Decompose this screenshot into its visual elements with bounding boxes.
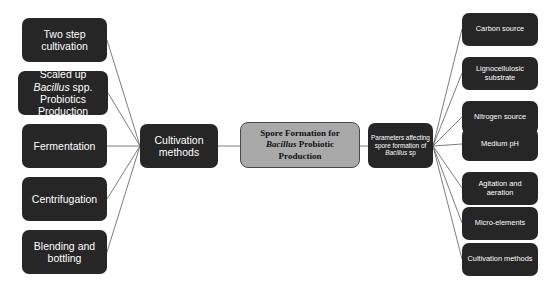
connector-right-6 bbox=[433, 146, 462, 223]
connector-right-7 bbox=[433, 146, 462, 259]
connector-right-1 bbox=[433, 29, 462, 146]
connector-left-4 bbox=[107, 146, 140, 199]
left-node-scaled-up-bacillus[interactable]: Scaled up Bacillus spp. Probiotics Produ… bbox=[18, 71, 108, 115]
right-node-medium-ph[interactable]: Medium pH bbox=[462, 128, 538, 161]
right-node-label: Carbon source bbox=[473, 25, 527, 34]
left-node-label: Blending and bottling bbox=[22, 240, 107, 265]
right-node-carbon-source[interactable]: Carbon source bbox=[462, 13, 538, 46]
connector-right-5 bbox=[433, 146, 462, 188]
center-node-spore-formation[interactable]: Spore Formation forBacillus ProbioticPro… bbox=[240, 122, 360, 168]
right-node-label: Cultivation methods bbox=[465, 255, 536, 264]
left-node-fermentation[interactable]: Fermentation bbox=[22, 124, 107, 168]
right-node-lignocellulosic-substrate[interactable]: Lignocellulosic substrate bbox=[462, 57, 538, 90]
right-node-label: Micro-elements bbox=[472, 219, 529, 228]
right-node-label: Lignocellulosic substrate bbox=[462, 65, 538, 82]
hub-parameters-affecting[interactable]: Parameters affectingspore formation ofBa… bbox=[368, 123, 433, 168]
connector-right-3 bbox=[433, 117, 462, 146]
connector-left-5 bbox=[107, 146, 140, 252]
right-node-label: Medium pH bbox=[478, 140, 522, 149]
right-node-micro-elements[interactable]: Micro-elements bbox=[462, 207, 538, 240]
italic-bacillus: Bacillus bbox=[266, 139, 297, 149]
connector-left-1 bbox=[107, 40, 140, 146]
right-node-agitation-and-aeration[interactable]: Agitation and aeration bbox=[462, 172, 538, 205]
right-node-label: Agitation and aeration bbox=[462, 180, 538, 197]
connector-left-2 bbox=[108, 93, 140, 146]
right-node-cultivation-methods[interactable]: Cultivation methods bbox=[462, 243, 538, 276]
left-node-blending-and-bottling[interactable]: Blending and bottling bbox=[22, 230, 107, 274]
italic-bacillus: Bacillus bbox=[34, 81, 70, 93]
left-node-label: Centrifugation bbox=[29, 193, 100, 205]
hub-left-label: Cultivation methods bbox=[140, 134, 218, 159]
connector-right-4 bbox=[433, 144, 462, 146]
italic-bacillus: Bacillus bbox=[385, 149, 407, 156]
connector-right-2 bbox=[433, 73, 462, 146]
center-node-label: Spore Formation forBacillus ProbioticPro… bbox=[257, 128, 342, 162]
left-node-label-rich: Scaled up Bacillus spp. Probiotics Produ… bbox=[18, 68, 108, 118]
hub-cultivation-methods[interactable]: Cultivation methods bbox=[140, 124, 218, 168]
left-node-label: Fermentation bbox=[31, 140, 99, 152]
hub-right-label: Parameters affectingspore formation ofBa… bbox=[368, 134, 433, 157]
right-node-label: Nitrogen source bbox=[471, 113, 529, 122]
left-node-label: Two step cultivation bbox=[22, 28, 107, 53]
left-node-two-step-cultivation[interactable]: Two step cultivation bbox=[22, 18, 107, 62]
left-node-centrifugation[interactable]: Centrifugation bbox=[22, 177, 107, 221]
diagram-canvas: Two step cultivation Scaled up Bacillus … bbox=[0, 0, 544, 289]
